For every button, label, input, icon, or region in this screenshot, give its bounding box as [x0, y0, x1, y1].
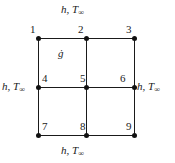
node-6 [132, 85, 137, 90]
boundary-label-bottom: h, T∞ [61, 145, 84, 158]
boundary-label-top: h, T∞ [61, 4, 84, 17]
infinity-subscript-top: ∞ [78, 8, 84, 17]
boundary-label-left: h, T∞ [2, 81, 25, 94]
node-label-8: 8 [80, 121, 86, 132]
node-label-5: 5 [80, 73, 86, 84]
node-1 [36, 36, 41, 41]
node-label-1: 1 [30, 24, 36, 35]
node-label-4: 4 [42, 73, 48, 84]
heat-generation-symbol: ġ [58, 48, 64, 59]
boundary-label-right: h, T∞ [137, 81, 160, 94]
infinity-subscript-right: ∞ [154, 85, 160, 94]
node-8 [84, 133, 89, 138]
node-3 [132, 36, 137, 41]
node-label-9: 9 [126, 121, 132, 132]
node-2 [84, 36, 89, 41]
node-5 [84, 85, 89, 90]
node-label-3: 3 [126, 24, 132, 35]
node-label-2: 2 [78, 24, 84, 35]
node-label-6: 6 [120, 73, 126, 84]
infinity-subscript-left: ∞ [19, 85, 25, 94]
finite-difference-grid-figure: h, T∞ h, T∞ h, T∞ h, T∞ ġ 123456789 [0, 0, 175, 163]
node-label-7: 7 [42, 121, 48, 132]
node-9 [132, 133, 137, 138]
infinity-subscript-bottom: ∞ [78, 149, 84, 158]
node-4 [36, 85, 41, 90]
node-7 [36, 133, 41, 138]
